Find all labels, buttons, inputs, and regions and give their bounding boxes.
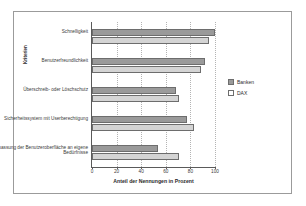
x-tick-label: 20 bbox=[114, 169, 119, 174]
bar-banken bbox=[92, 116, 187, 123]
legend-label: Banken bbox=[237, 79, 254, 85]
x-tick-label: 100 bbox=[211, 169, 219, 174]
legend-swatch-icon bbox=[228, 90, 234, 96]
gridline bbox=[215, 22, 216, 167]
bar-dax bbox=[92, 37, 209, 44]
bar-chart-figure: Kriterien SchnelligkeitBenutzerfreundlic… bbox=[13, 11, 292, 194]
legend-swatch-icon bbox=[228, 79, 234, 85]
bar-group: Sicherheitssystem mit Userberechtigung bbox=[92, 109, 215, 138]
bar-group: Benutzerfreundlichkeit bbox=[92, 51, 215, 80]
bar-dax bbox=[92, 66, 201, 73]
x-tick-label: 80 bbox=[188, 169, 193, 174]
y-category-label: Überschreib- oder Löschschutz bbox=[0, 87, 88, 93]
legend-item: Banken bbox=[228, 79, 254, 85]
bar-banken bbox=[92, 87, 176, 94]
y-category-label: Sicherheitssystem mit Userberechtigung bbox=[0, 116, 88, 122]
bar-group: Anpassung der Benutzeroberfläche an eige… bbox=[92, 138, 215, 167]
bar-dax bbox=[92, 124, 194, 131]
plot-area: SchnelligkeitBenutzerfreundlichkeitÜbers… bbox=[91, 22, 215, 168]
chart-legend: BankenDAX bbox=[228, 79, 254, 101]
y-category-label: Schnelligkeit bbox=[0, 29, 88, 35]
bar-dax bbox=[92, 153, 179, 160]
bar-group: Überschreib- oder Löschschutz bbox=[92, 80, 215, 109]
bar-dax bbox=[92, 95, 179, 102]
x-tick-label: 40 bbox=[139, 169, 144, 174]
bar-group: Schnelligkeit bbox=[92, 22, 215, 51]
legend-item: DAX bbox=[228, 90, 254, 96]
bar-banken bbox=[92, 58, 205, 65]
legend-label: DAX bbox=[237, 90, 247, 96]
y-category-label: Benutzerfreundlichkeit bbox=[0, 58, 88, 64]
x-tick-label: 60 bbox=[163, 169, 168, 174]
y-category-label: Anpassung der Benutzeroberfläche an eige… bbox=[0, 145, 88, 156]
bar-banken bbox=[92, 29, 215, 36]
x-axis-title: Anteil der Nennungen in Prozent bbox=[92, 178, 215, 184]
x-tick-label: 0 bbox=[91, 169, 94, 174]
bar-banken bbox=[92, 145, 158, 152]
